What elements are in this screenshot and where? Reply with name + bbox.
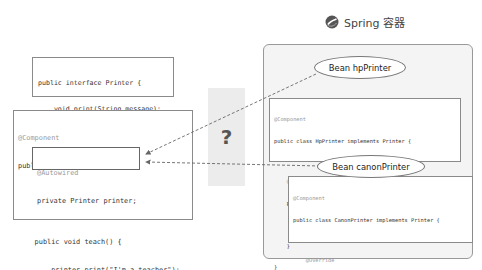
override-annotation: @Override <box>293 257 468 264</box>
component-annotation: @Component <box>18 134 188 143</box>
printer-interface-code: public interface Printer { void print(St… <box>32 57 174 97</box>
question-mark-panel: ? <box>208 88 245 186</box>
code-line: public interface Printer { <box>38 79 168 88</box>
autowired-field-highlight: @Autowired private Printer printer; <box>32 147 140 170</box>
code-line: public void teach() { <box>18 238 188 247</box>
bean-hp-printer-label: Bean hpPrinter <box>314 56 406 79</box>
canon-printer-class-code: @Component public class CanonPrinter imp… <box>288 176 473 243</box>
bean-name: Bean canonPrinter <box>332 162 409 172</box>
class-declaration: public class CanonPrinter implements Pri… <box>293 217 468 224</box>
spring-logo-icon <box>325 15 339 29</box>
spring-container-title: Spring 容器 <box>325 14 405 30</box>
hp-printer-class-code: @Component public class HpPrinter implem… <box>269 98 461 162</box>
spring-title-label: Spring 容器 <box>344 14 405 30</box>
printer-field: private Printer printer; <box>37 197 135 206</box>
bean-canon-printer-label: Bean canonPrinter <box>317 155 425 178</box>
component-annotation: @Component <box>293 195 468 202</box>
bean-name: Bean hpPrinter <box>329 63 392 73</box>
class-declaration: public class HpPrinter implements Printe… <box>274 138 456 145</box>
autowired-annotation: @Autowired <box>37 169 135 178</box>
code-line: printer.print("I'm a teacher"); <box>18 266 188 270</box>
component-annotation: @Component <box>274 116 456 123</box>
question-mark: ? <box>221 125 233 149</box>
